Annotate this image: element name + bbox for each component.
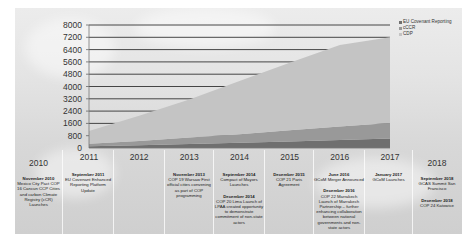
- y-tick-label: 4000: [42, 82, 82, 92]
- timeline-year: 2010: [15, 158, 62, 168]
- y-tick-label: 4800: [42, 69, 82, 79]
- legend-label: CDP: [403, 31, 413, 37]
- timeline-event: December 2015 COP 21 Paris Agreement: [265, 172, 313, 188]
- timeline-event: December 2016 COP 22 Marrakech Launch of…: [314, 188, 364, 230]
- y-tick-label: 3200: [42, 94, 82, 104]
- timeline-event: December 2014 COP 20 Lima Launch of LPAA…: [214, 194, 264, 225]
- event-text: GCoM Launches: [372, 177, 404, 182]
- legend-swatch-eu: [399, 21, 402, 24]
- event-text: Mexico City Pact COP 16 Cancun CCP Citie…: [17, 181, 60, 207]
- y-tick-label: 800: [42, 131, 82, 141]
- event-text: COP 19 Warsaw First official cities conv…: [167, 177, 211, 198]
- timeline-event: December 2018 COP 24 Katowice: [413, 198, 461, 208]
- event-text: Compact of Mayors Launches: [220, 177, 257, 187]
- timeline-event: November 2013 COP 19 Warsaw First offici…: [165, 172, 213, 198]
- timeline-event: September 2011 EU Covenant Enhanced Repo…: [63, 172, 113, 193]
- y-tick-label: 7200: [42, 32, 82, 42]
- y-tick-label: 1600: [42, 118, 82, 128]
- timeline-event: September 2014 Compact of Mayors Launche…: [214, 172, 264, 188]
- timeline-column-2018: 2018 September 2018 GCAS Summit San Fran…: [413, 154, 461, 214]
- timeline-column-2011: 2011 September 2011 EU Covenant Enhanced…: [63, 154, 113, 199]
- timeline-event: June 2016 GCoM Merger Announced: [314, 172, 364, 182]
- event-text: COP 24 Katowice: [420, 203, 454, 208]
- y-tick-label: 8000: [42, 20, 82, 30]
- legend-item-cdp: CDP: [399, 31, 452, 37]
- event-text: COP 22 Marrakech Launch of Marrakech Par…: [316, 194, 361, 230]
- event-text: COP 20 Lima Launch of LPAA created oppor…: [215, 199, 263, 225]
- chart-legend: EU Covenant Reporting cCCR CDP: [399, 19, 452, 37]
- y-tick-label: 5600: [42, 57, 82, 67]
- timeline-event: September 2018 GCAS Summit San Francisco: [413, 176, 461, 192]
- timeline-column-2016: 2016 June 2016 GCoM Merger Announced Dec…: [314, 154, 364, 236]
- event-text: GCoM Merger Announced: [314, 177, 364, 182]
- event-text: EU Covenant Enhanced Reporting Platform …: [65, 177, 111, 192]
- timeline-event: November 2010 Mexico City Pact COP 16 Ca…: [15, 176, 62, 207]
- timeline-column-2014: 2014 September 2014 Compact of Mayors La…: [214, 154, 264, 231]
- timeline-column-2017: 2017 January 2017 GCoM Launches: [365, 154, 412, 188]
- y-tick-label: 2400: [42, 106, 82, 116]
- legend-swatch-cccr: [399, 27, 402, 30]
- x-tick-label: 2012: [119, 152, 159, 162]
- timeline-year: 2018: [413, 158, 461, 168]
- timeline-column-2010: 2010 November 2010 Mexico City Pact COP …: [15, 154, 62, 213]
- timeline-column-2013: 2013 November 2013 COP 19 Warsaw First o…: [165, 154, 213, 204]
- y-tick-label: 6400: [42, 45, 82, 55]
- timeline-column-2015: 2015 December 2015 COP 21 Paris Agreemen…: [265, 154, 313, 194]
- timeline-event: January 2017 GCoM Launches: [365, 172, 412, 182]
- event-text: GCAS Summit San Francisco: [419, 181, 456, 191]
- event-text: COP 21 Paris Agreement: [276, 177, 302, 187]
- legend-swatch-cdp: [399, 33, 402, 36]
